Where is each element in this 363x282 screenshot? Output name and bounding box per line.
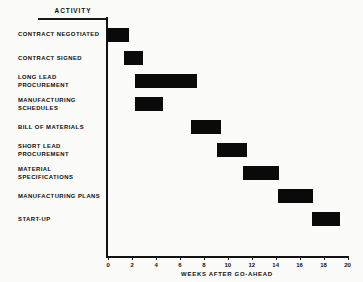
x-tick-label: 18: [315, 262, 333, 268]
x-tick: [180, 256, 181, 260]
x-tick: [228, 256, 229, 260]
activity-label: MATERIAL SPECIFICATIONS: [18, 165, 106, 181]
gantt-bar: [278, 189, 313, 203]
x-tick-label: 0: [99, 262, 117, 268]
x-tick-label: 8: [195, 262, 213, 268]
gantt-bar: [135, 74, 197, 88]
activity-label: MANUFACTURING PLANS: [18, 192, 106, 200]
x-tick: [348, 256, 349, 260]
activity-label: CONTRACT NEGOTIATED: [18, 30, 106, 38]
x-tick: [252, 256, 253, 260]
x-tick: [204, 256, 205, 260]
gantt-bar: [108, 28, 128, 42]
activity-label: LONG LEAD PROCUREMENT: [18, 73, 106, 89]
activity-label: SHORT LEAD PROCUREMENT: [18, 142, 106, 158]
x-tick-label: 12: [243, 262, 261, 268]
x-tick: [324, 256, 325, 260]
x-tick-label: 20: [339, 262, 357, 268]
gantt-bar: [124, 51, 143, 65]
x-tick-label: 16: [291, 262, 309, 268]
x-tick: [156, 256, 157, 260]
x-tick-label: 2: [123, 262, 141, 268]
gantt-bar: [217, 143, 247, 157]
x-tick: [108, 256, 109, 260]
x-tick-label: 10: [219, 262, 237, 268]
activity-label: START-UP: [18, 215, 106, 223]
x-tick: [300, 256, 301, 260]
x-tick-label: 14: [267, 262, 285, 268]
gantt-bar: [312, 212, 341, 226]
activity-label: MANUFACTURING SCHEDULES: [18, 96, 106, 112]
x-tick: [132, 256, 133, 260]
gantt-bar: [191, 120, 221, 134]
activity-label: CONTRACT SIGNED: [18, 54, 106, 62]
activity-label: BILL OF MATERIALS: [18, 123, 106, 131]
y-axis-line: [106, 17, 108, 258]
gantt-bar: [135, 97, 164, 111]
activity-header-rule: [38, 18, 108, 20]
x-tick: [276, 256, 277, 260]
x-tick-label: 6: [171, 262, 189, 268]
gantt-chart: ACTIVITY CONTRACT NEGOTIATEDCONTRACT SIG…: [0, 0, 363, 282]
x-tick-label: 4: [147, 262, 165, 268]
gantt-bar: [243, 166, 279, 180]
x-axis-title: WEEKS AFTER GO-AHEAD: [106, 271, 348, 277]
activity-column-header: ACTIVITY: [38, 7, 108, 14]
